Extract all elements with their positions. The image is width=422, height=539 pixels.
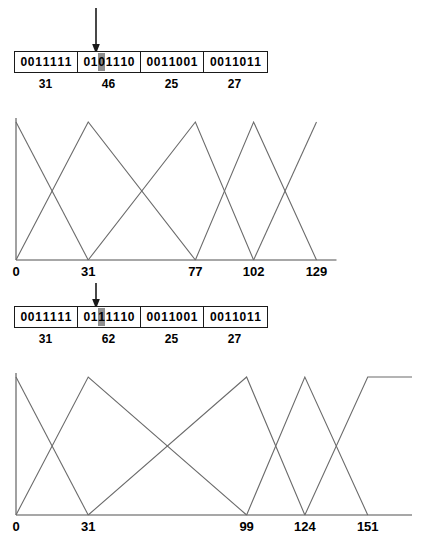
- x-tick-label: 77: [188, 264, 202, 279]
- bit: 1: [57, 308, 64, 326]
- gene-bits-0: 0011111: [20, 53, 72, 71]
- bit: 1: [120, 308, 127, 326]
- bit: 0: [28, 308, 35, 326]
- bit: 1: [113, 53, 120, 71]
- bit: 0: [154, 53, 161, 71]
- gene-bits-3: 0011011: [210, 53, 262, 71]
- chart-series-after: [16, 377, 412, 515]
- bit: 0: [239, 53, 246, 71]
- gene-bits-2: 0011001: [146, 53, 198, 71]
- chromosome-after[interactable]: 0011111 0111110 0011001 0011011: [14, 306, 268, 328]
- decoded-values-after: 31 62 25 27: [14, 332, 266, 346]
- x-tick-label: 0: [12, 264, 19, 279]
- membership-curve-mf-3: [88, 122, 253, 260]
- bit: 0: [183, 53, 190, 71]
- bit: 1: [35, 308, 42, 326]
- decoded-value-3: 27: [203, 332, 266, 346]
- bit: 0: [217, 308, 224, 326]
- bit: 0: [28, 53, 35, 71]
- x-tick-label: 102: [243, 264, 265, 279]
- bit: 1: [190, 53, 197, 71]
- bit: 1: [232, 308, 239, 326]
- decoded-value-1: 46: [77, 77, 140, 91]
- gene-cell-2[interactable]: 0011001: [141, 307, 204, 327]
- bit: 1: [161, 53, 168, 71]
- x-tick-label: 31: [81, 519, 95, 534]
- x-tick-label: 124: [294, 519, 316, 534]
- bit: 0: [20, 53, 27, 71]
- bit: 1: [190, 308, 197, 326]
- decoded-value-2: 25: [140, 77, 203, 91]
- gene-bits-3: 0011011: [210, 308, 262, 326]
- bit: 1: [57, 53, 64, 71]
- bit: 0: [83, 53, 90, 71]
- bit: 1: [50, 308, 57, 326]
- bit: 0: [239, 308, 246, 326]
- membership-function-chart-before: 03177102129: [0, 110, 422, 270]
- chromosome-before[interactable]: 0011111 0101110 0011001 0011011: [14, 51, 268, 73]
- membership-function-svg-before: [0, 110, 422, 270]
- membership-curve-mf-4: [195, 122, 316, 260]
- gene-bits-0: 0011111: [20, 308, 72, 326]
- bit: 1: [91, 308, 98, 326]
- decoded-value-2: 25: [140, 332, 203, 346]
- membership-curve-mf-2: [16, 122, 195, 260]
- gene-cell-1[interactable]: 0101110: [78, 52, 141, 72]
- membership-function-chart-after: 03199124151: [0, 365, 422, 525]
- bit: 1: [105, 53, 112, 71]
- bit: 0: [154, 308, 161, 326]
- bit: 0: [146, 53, 153, 71]
- bit: 1: [120, 53, 127, 71]
- bit: 1: [42, 53, 49, 71]
- bit: 0: [210, 308, 217, 326]
- gene-cell-1[interactable]: 0111110: [78, 307, 141, 327]
- x-tick-label: 0: [12, 519, 19, 534]
- x-tick-label: 151: [357, 519, 379, 534]
- bit: 1: [64, 308, 71, 326]
- x-tick-label: 99: [239, 519, 253, 534]
- membership-function-svg-after: [0, 365, 422, 525]
- gene-cell-3[interactable]: 0011011: [204, 52, 267, 72]
- bit: 1: [232, 53, 239, 71]
- decoded-value-3: 27: [203, 77, 266, 91]
- bit: 1: [254, 308, 261, 326]
- bit: 1: [247, 53, 254, 71]
- bit: 1: [247, 308, 254, 326]
- bit: 0: [127, 53, 134, 71]
- bit: 1: [105, 308, 112, 326]
- chart-axes-after: [16, 373, 412, 515]
- gene-bits-1: 0111110: [83, 308, 135, 326]
- bit: 0: [176, 308, 183, 326]
- bit: 1: [42, 308, 49, 326]
- bit: 1: [50, 53, 57, 71]
- bit: 1: [35, 53, 42, 71]
- gene-cell-3[interactable]: 0011011: [204, 307, 267, 327]
- mutated-bit: 0: [98, 53, 105, 71]
- bit: 1: [224, 308, 231, 326]
- x-tick-label: 31: [81, 264, 95, 279]
- gene-bits-1: 0101110: [83, 53, 135, 71]
- bit: 1: [161, 308, 168, 326]
- decoded-value-0: 31: [14, 332, 77, 346]
- bit: 0: [20, 308, 27, 326]
- bit: 0: [127, 308, 134, 326]
- chart-axes-before: [16, 118, 336, 260]
- bit: 0: [217, 53, 224, 71]
- bit: 0: [210, 53, 217, 71]
- membership-curve-mf-3: [88, 377, 305, 515]
- bit: 0: [183, 308, 190, 326]
- bit: 1: [224, 53, 231, 71]
- gene-cell-2[interactable]: 0011001: [141, 52, 204, 72]
- decoded-value-1: 62: [77, 332, 140, 346]
- bit: 1: [168, 308, 175, 326]
- bit: 0: [146, 308, 153, 326]
- bit: 0: [176, 53, 183, 71]
- bit: 1: [64, 53, 71, 71]
- bit: 1: [254, 53, 261, 71]
- bit: 1: [91, 53, 98, 71]
- gene-cell-0[interactable]: 0011111: [15, 52, 78, 72]
- bit: 0: [83, 308, 90, 326]
- down-arrow-icon: [88, 8, 104, 54]
- decoded-values-before: 31 46 25 27: [14, 77, 266, 91]
- gene-cell-0[interactable]: 0011111: [15, 307, 78, 327]
